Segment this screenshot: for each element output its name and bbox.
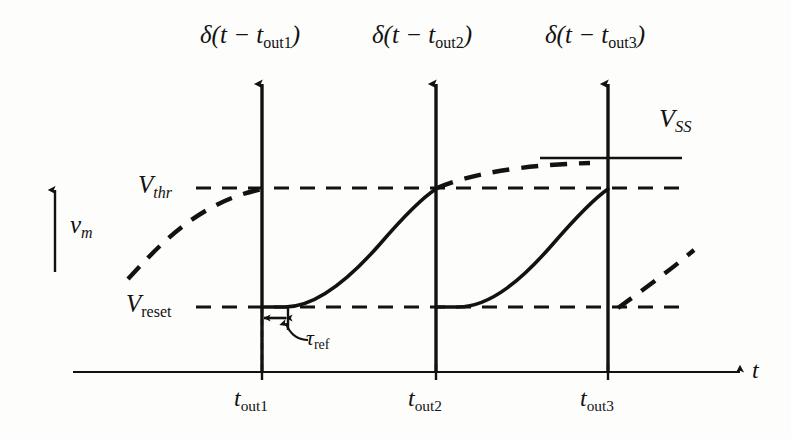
tick-label-tout1: tout1 xyxy=(234,386,268,410)
spike-1-label: δ(t − tout1) xyxy=(200,22,300,47)
v-reset-label: Vreset xyxy=(126,291,171,316)
asymptote-curve-left xyxy=(128,189,262,279)
figure-canvas xyxy=(0,0,791,439)
asymptote-curve-middle xyxy=(437,163,590,188)
v-threshold-label: Vthr xyxy=(138,172,172,197)
tick-label-tout2: tout2 xyxy=(408,386,442,410)
vm-axis-label: vm xyxy=(70,212,93,237)
time-axis-label: t xyxy=(752,358,759,382)
lif-neuron-figure: δ(t − tout1) δ(t − tout2) δ(t − tout3) V… xyxy=(0,0,791,439)
refractory-callout-arrow xyxy=(286,323,308,340)
membrane-trace-2 xyxy=(436,189,608,307)
refractory-label: τref xyxy=(306,327,330,349)
spike-2-label: δ(t − tout2) xyxy=(372,22,472,47)
v-steady-state-label: VSS xyxy=(659,106,692,132)
asymptote-curve-right xyxy=(618,250,694,308)
membrane-trace-1 xyxy=(262,189,436,307)
spike-3-label: δ(t − tout3) xyxy=(545,22,645,47)
tick-label-tout3: tout3 xyxy=(580,386,614,410)
